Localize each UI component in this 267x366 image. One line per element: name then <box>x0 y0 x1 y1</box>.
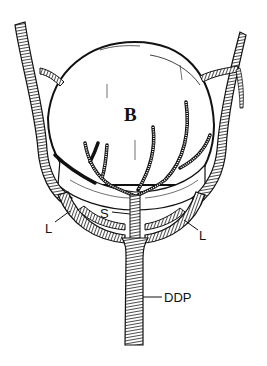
label-septum: S <box>100 206 109 221</box>
leader-s <box>112 212 130 214</box>
organ-b <box>48 42 214 210</box>
left-upper-branch <box>40 68 64 86</box>
ddp-trunk <box>122 238 148 345</box>
label-ddp: DDP <box>164 290 191 305</box>
label-organ-b: B <box>124 104 137 125</box>
label-right-lateral: L <box>199 228 206 243</box>
label-left-lateral: L <box>45 221 52 236</box>
septum-vessel <box>130 195 140 240</box>
right-small-branch <box>236 68 243 108</box>
leader-l-left <box>55 211 70 222</box>
anatomical-diagram: B S L L DDP <box>0 0 267 366</box>
